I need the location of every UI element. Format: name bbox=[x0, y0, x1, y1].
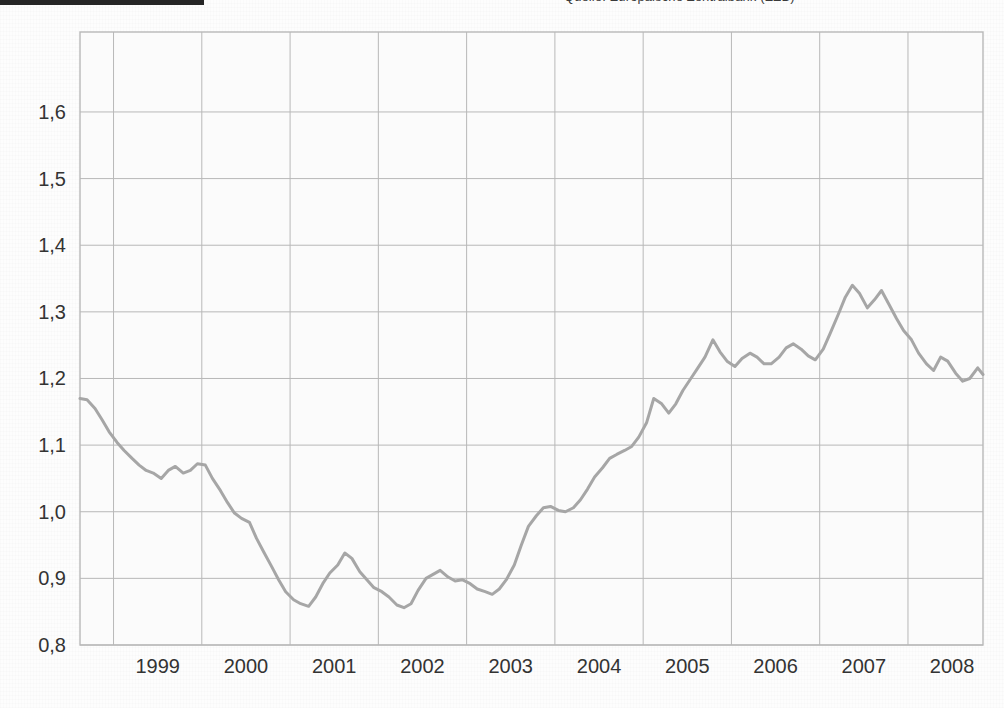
x-axis-tick-label: 2002 bbox=[400, 655, 445, 677]
y-axis-tick-label: 1,6 bbox=[38, 101, 66, 123]
y-axis-tick-label: 1,2 bbox=[38, 367, 66, 389]
eur-usd-line-chart: 1,61,51,41,31,21,11,00,90,8 199920002001… bbox=[0, 0, 1004, 708]
x-axis-tick-label: 2006 bbox=[753, 655, 798, 677]
cropped-header-band bbox=[0, 0, 204, 5]
x-axis-tick-label: 2004 bbox=[577, 655, 622, 677]
x-axis-tick-label: 2005 bbox=[665, 655, 710, 677]
cropped-caption-sliver: Quelle: Europäische Zentralbank (EZB) bbox=[564, 0, 994, 4]
x-axis-tick-label: 1999 bbox=[135, 655, 180, 677]
x-axis-tick-labels: 1999200020012002200320042005200620072008 bbox=[135, 655, 974, 677]
caption-text: Quelle: Europäische Zentralbank (EZB) bbox=[564, 0, 795, 4]
x-axis-tick-label: 2008 bbox=[930, 655, 975, 677]
x-axis-tick-label: 2007 bbox=[842, 655, 887, 677]
y-axis-tick-label: 0,9 bbox=[38, 567, 66, 589]
y-axis-tick-label: 1,5 bbox=[38, 168, 66, 190]
y-axis-tick-labels: 1,61,51,41,31,21,11,00,90,8 bbox=[38, 101, 66, 656]
y-axis-tick-label: 1,0 bbox=[38, 501, 66, 523]
gridlines bbox=[80, 32, 983, 645]
x-axis-tick-label: 2001 bbox=[312, 655, 357, 677]
x-axis-tick-label: 2003 bbox=[489, 655, 534, 677]
y-axis-tick-label: 1,1 bbox=[38, 434, 66, 456]
x-axis-tick-label: 2000 bbox=[224, 655, 269, 677]
y-axis-tick-label: 1,3 bbox=[38, 301, 66, 323]
y-axis-tick-label: 1,4 bbox=[38, 234, 66, 256]
chart-svg: 1,61,51,41,31,21,11,00,90,8 199920002001… bbox=[0, 0, 1004, 708]
y-axis-tick-label: 0,8 bbox=[38, 634, 66, 656]
